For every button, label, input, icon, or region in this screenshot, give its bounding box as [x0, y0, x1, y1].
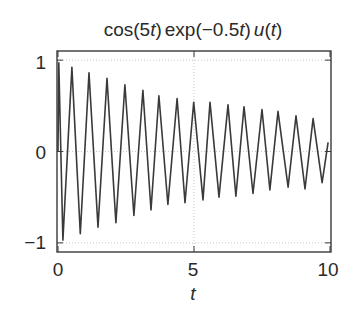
y-tick-label: 0 — [35, 142, 46, 163]
x-axis-label: t — [190, 283, 196, 304]
x-tick-label: 10 — [317, 259, 338, 280]
x-tick-label: 5 — [188, 259, 199, 280]
signal-line — [58, 63, 328, 240]
chart: cos(5t)exp(−0.5t)u(t) 1 0 −1 0 5 10 t — [0, 0, 356, 322]
x-tick-label: 0 — [53, 259, 64, 280]
y-tick-label: −1 — [24, 232, 46, 253]
x-tick-labels: 0 5 10 — [53, 259, 339, 280]
y-tick-label: 1 — [35, 52, 46, 73]
y-tick-labels: 1 0 −1 — [24, 52, 46, 253]
chart-title: cos(5t)exp(−0.5t)u(t) — [104, 19, 283, 40]
